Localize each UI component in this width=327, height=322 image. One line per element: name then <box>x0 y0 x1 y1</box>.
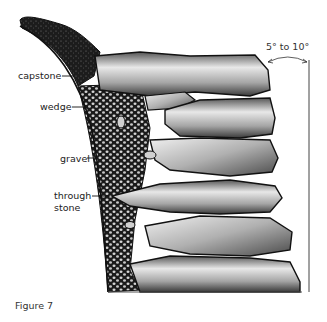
face-stone-4 <box>150 138 278 176</box>
gravel-hearting <box>78 84 150 292</box>
gravel-pebble <box>144 151 156 159</box>
dry-stone-wall-diagram: capstone wedge gravel through stone 5° t… <box>0 0 327 322</box>
label-wedge: wedge <box>40 101 72 112</box>
batter-angle-label: 5° to 10° <box>266 41 309 52</box>
face-stone-6 <box>130 256 300 292</box>
face-stone-5 <box>145 216 292 256</box>
label-through-stone-line2: stone <box>54 202 80 213</box>
angle-arc <box>268 57 307 62</box>
wedge-stone <box>117 116 125 128</box>
label-through-stone-line1: through <box>54 190 91 201</box>
label-capstone: capstone <box>18 70 61 81</box>
figure-caption: Figure 7 <box>15 300 53 311</box>
gravel-pebble <box>125 222 135 229</box>
label-gravel: gravel <box>60 153 90 164</box>
face-stone-1 <box>95 52 270 96</box>
